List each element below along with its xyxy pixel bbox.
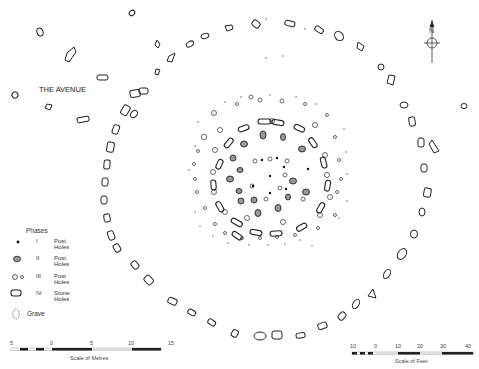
legend-numeral: IV (36, 290, 42, 296)
feet-tick: 40 (465, 343, 471, 349)
metres-tick: 5 (90, 340, 93, 346)
legend-numeral: II (36, 255, 39, 261)
phase-i-post-holes (252, 157, 309, 194)
legend-label: Stone Holes (54, 290, 70, 302)
legend-label: Grave (27, 310, 45, 317)
inner-horseshoe (188, 18, 348, 247)
legend-label: Post Holes (54, 255, 69, 267)
feet-tick: 0 (374, 343, 377, 349)
avenue-stones (11, 27, 139, 123)
metres-tick: 5 (10, 340, 13, 346)
feet-tick: 20 (417, 343, 423, 349)
outer-stone-ring (101, 9, 467, 340)
metres-tick: 10 (128, 340, 134, 346)
metres-scale-bar (11, 348, 161, 351)
feet-tick: 10 (395, 343, 401, 349)
feet-tick: 30 (440, 343, 446, 349)
legend-label: Post Holes (54, 273, 69, 285)
legend-title: Phases (26, 227, 48, 234)
metres-tick: 0 (50, 340, 53, 346)
feet-scale-title: Scale of Feet (395, 358, 427, 364)
avenue-label: THE AVENUE (39, 85, 86, 94)
legend-symbols (11, 241, 24, 319)
feet-scale-bar (352, 352, 474, 355)
metres-scale-title: Scale of Metres (70, 355, 108, 361)
site-plan-drawing (0, 0, 479, 369)
legend-numeral: I (36, 238, 38, 244)
legend-numeral: III (36, 273, 41, 279)
metres-tick: 15 (168, 340, 174, 346)
legend-label: Post Holes (54, 238, 69, 250)
feet-tick: 10 (350, 343, 356, 349)
north-label: N (429, 27, 434, 34)
